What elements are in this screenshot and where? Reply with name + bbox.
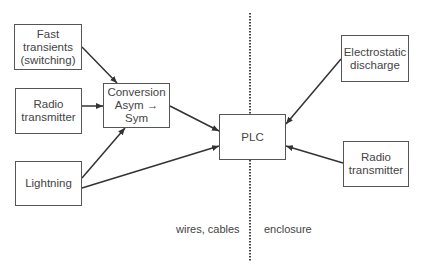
label-wires-cables: wires, cables [176,223,240,235]
arrow-conversion-to-plc [170,106,219,131]
label-enclosure: enclosure [264,223,312,235]
arrow-electrostatic-to-plc [286,59,341,124]
arrow-fast-transients-to-conversion [82,47,117,83]
arrow-radio-right-to-plc [286,146,343,163]
box-radio-transmitter-left: Radio transmitter [15,88,82,134]
box-electrostatic-discharge: Electrostatic discharge [341,35,409,82]
box-radio-transmitter-right: Radio transmitter [343,141,409,187]
box-fast-transients: Fast transients (switching) [14,24,82,70]
box-conversion: Conversion Asym → Sym [103,83,170,128]
arrow-lightning-to-conversion [82,128,125,178]
box-plc: PLC [219,114,286,160]
box-lightning: Lightning [15,161,82,206]
arrow-lightning-to-plc [82,146,219,188]
